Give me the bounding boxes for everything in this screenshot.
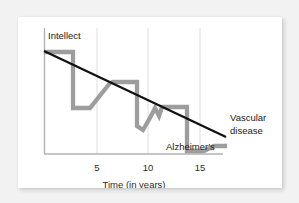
x-tick-label-10: 10 <box>143 162 154 173</box>
x-axis-label: Time (in years) <box>103 179 166 188</box>
series-label-vascular-disease-line2: disease <box>230 125 263 136</box>
gridlines <box>97 28 200 154</box>
chart-card: Intellect 5 10 15 Time (in years) Vascul… <box>18 17 282 188</box>
series-label-vascular-disease-line1: Vascular <box>230 112 266 123</box>
series-label-alzheimers: Alzheimer's <box>166 141 215 152</box>
x-tick-label-15: 15 <box>195 162 206 173</box>
x-tick-label-5: 5 <box>94 162 99 173</box>
y-axis-label: Intellect <box>48 30 81 41</box>
intellect-decline-chart: Intellect 5 10 15 Time (in years) Vascul… <box>18 17 282 188</box>
figure-root: Intellect 5 10 15 Time (in years) Vascul… <box>0 0 299 203</box>
